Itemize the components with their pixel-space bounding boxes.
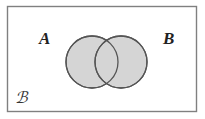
sample-space-label: ℬ bbox=[15, 90, 28, 106]
set-b-label: B bbox=[163, 30, 174, 47]
set-a-label: A bbox=[39, 30, 50, 47]
venn-diagram-figure: A B ℬ bbox=[0, 0, 205, 119]
venn-diagram-canvas bbox=[0, 0, 205, 119]
